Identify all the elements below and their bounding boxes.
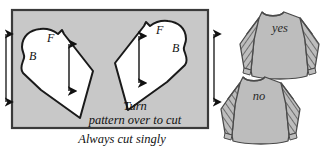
instruction-line-1: Turn [123, 99, 147, 113]
garment-label-yes: yes [270, 21, 288, 35]
caption-always-cut-singly: Always cut singly [77, 132, 166, 146]
front-label-left: F [46, 31, 55, 45]
back-label-left: B [29, 49, 37, 63]
sewing-layout-diagram: F B F B Turn pattern over to cut Always … [0, 0, 332, 149]
garment-incorrect: no [221, 77, 300, 144]
garment-correct: yes [240, 12, 319, 79]
instruction-line-2: pattern over to cut [88, 113, 182, 127]
garment-label-no: no [253, 89, 266, 103]
back-label-right: B [172, 41, 180, 55]
front-label-right: F [155, 23, 164, 37]
diagram-root: F B F B Turn pattern over to cut Always … [0, 0, 332, 149]
